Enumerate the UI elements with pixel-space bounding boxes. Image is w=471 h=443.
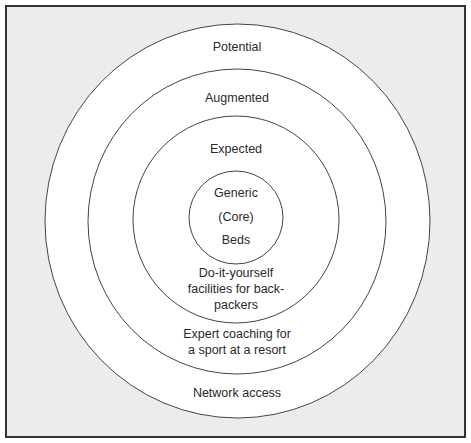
label-potential: Potential xyxy=(213,39,262,55)
label-core: (Core) xyxy=(218,209,253,225)
example-expected: Do-it-yourself facilities for back- pack… xyxy=(188,265,285,313)
label-augmented: Augmented xyxy=(205,90,269,106)
example-beds: Beds xyxy=(222,232,251,248)
example-potential: Network access xyxy=(193,385,281,401)
label-generic: Generic xyxy=(214,185,258,201)
label-expected: Expected xyxy=(210,141,262,157)
example-augmented: Expert coaching for a sport at a resort xyxy=(183,326,291,358)
